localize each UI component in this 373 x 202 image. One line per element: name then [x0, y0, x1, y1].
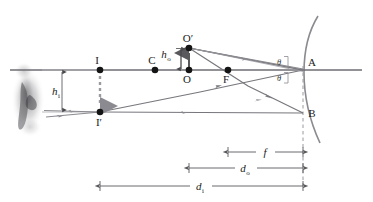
object-height-subscript: o	[167, 55, 171, 63]
optics-ray-diagram: I I′ C O O′ F A B ho hi θ θ f do di	[0, 0, 373, 202]
point-dot-C	[152, 67, 159, 74]
ray-A-to-Ip	[100, 70, 303, 112]
ray-Op-to-B	[189, 48, 303, 113]
label-point-I: I	[95, 54, 99, 66]
object-distance-subscript: o	[246, 169, 250, 177]
concave-mirror-arc	[304, 16, 320, 143]
label-point-Ip: I′	[96, 116, 102, 128]
point-dot-Ip	[97, 109, 104, 116]
label-point-Op: O′	[183, 32, 193, 44]
image-distance-subscript: i	[202, 187, 204, 195]
ray-B-to-Ip	[100, 112, 303, 113]
label-point-B: B	[308, 107, 315, 119]
ray-arrowhead-4	[180, 111, 188, 114]
ray-arrowhead-3	[265, 94, 273, 99]
label-object-height: ho	[161, 48, 171, 63]
ray-arrowhead-7	[254, 99, 262, 102]
image-height-subscript: i	[58, 92, 60, 100]
ray-extend-left-1	[46, 112, 100, 117]
label-point-F: F	[223, 73, 229, 85]
label-point-A: A	[308, 56, 316, 68]
label-theta-reflected: θ	[277, 73, 281, 83]
diagram-canvas: I I′ C O O′ F A B ho hi θ θ f do di	[0, 0, 373, 202]
label-theta-incident: θ	[277, 57, 281, 67]
object-height-measure	[176, 49, 186, 70]
point-dot-I	[97, 67, 104, 74]
label-point-O: O	[183, 73, 191, 85]
label-image-height: hi	[52, 85, 60, 100]
point-dot-Op	[186, 45, 193, 52]
ray-Op-secondary	[189, 48, 303, 72]
label-point-C: C	[148, 54, 155, 66]
observer-eye-smudge	[11, 62, 45, 137]
